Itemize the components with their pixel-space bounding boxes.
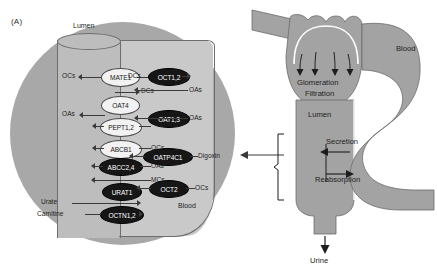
arrow-right-icon <box>137 200 141 206</box>
transporter-oat4[interactable]: OAT4 <box>101 96 140 115</box>
substrate-dcs-oct12: DCs <box>128 72 141 79</box>
connector-line <box>139 126 151 127</box>
nephron-panel: Blood Glomeration Filtration Lumen Secre… <box>250 4 437 266</box>
substrate-ocs-oct2: OCs <box>195 184 208 191</box>
arrow-left-icon <box>78 74 82 80</box>
connector-line <box>186 188 195 189</box>
substrate-oas-oat13: OAs <box>189 114 202 121</box>
substrate-digoxin: Digoxin <box>198 152 220 159</box>
connector-line <box>95 180 151 181</box>
connector-line <box>139 148 151 149</box>
transporter-abcc24[interactable]: ABCC2,4 <box>99 158 143 176</box>
blood-label: Blood <box>178 202 196 209</box>
connector-line <box>96 126 104 127</box>
transporter-oatp4c1[interactable]: OATP4C1 <box>143 148 193 166</box>
label-secretion: Secretion <box>326 137 358 146</box>
connector-line <box>133 156 145 157</box>
transporter-oct12[interactable]: OCT1,2 <box>148 68 190 86</box>
lumen-opening <box>57 33 121 50</box>
transporter-oct2[interactable]: OCT2 <box>149 180 189 198</box>
label-glomeration: Glomeration <box>297 78 338 87</box>
substrate-urate: Urate <box>41 198 57 205</box>
transporter-oat13[interactable]: OAT1,3 <box>148 110 190 128</box>
connector-line <box>182 76 189 77</box>
label-urine: Urine <box>310 256 328 265</box>
cell-panel: Lumen Blood OCs MATE1 DCs OAT4 OAs PEPT1… <box>10 22 238 250</box>
connector-line <box>140 166 151 167</box>
connector-line <box>72 203 138 204</box>
arrow-left-icon <box>79 112 83 118</box>
label-filtration: Filtration <box>305 89 334 98</box>
label-reabsorption: Reabsorption <box>315 175 360 184</box>
connector-line <box>85 214 101 215</box>
connector-line <box>138 118 188 119</box>
arrow-right-icon <box>139 211 143 217</box>
substrate-oas-oct12: OAs <box>189 86 202 93</box>
connector-line <box>95 166 103 167</box>
label-blood: Blood <box>396 44 415 53</box>
lumen-label: Lumen <box>73 22 94 29</box>
connector-line <box>83 115 105 116</box>
substrate-ocs-mate1: OCs <box>62 72 75 79</box>
connector-line <box>140 188 151 189</box>
figure-root: (A) Lumen Blood OCs MATE1 DCs OAT4 OAs P… <box>0 0 437 268</box>
transporter-octn12[interactable]: OCTN1,2 <box>100 206 144 224</box>
substrate-oas-oat4: OAs <box>62 110 75 117</box>
label-lumen: Lumen <box>308 110 331 119</box>
connector-line <box>190 156 198 157</box>
substrate-carnitine: Carnitine <box>37 210 63 217</box>
connector-line <box>138 90 188 91</box>
connector-line <box>96 148 104 149</box>
